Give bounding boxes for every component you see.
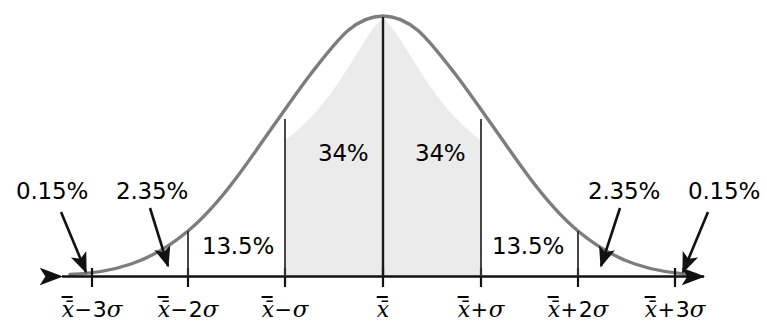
axis-tick-label-minus-1sigma: x̄−σ <box>262 296 309 322</box>
sigma-symbol: σ <box>593 296 609 322</box>
distribution-chart-svg <box>0 0 767 336</box>
sigma-symbol: σ <box>293 296 309 322</box>
normal-distribution-figure: 0.15% 2.35% 13.5% 34% 34% 13.5% 2.35% 0.… <box>0 0 767 336</box>
axis-tick-label-plus-2sigma: x̄+2σ <box>548 296 609 322</box>
operator-symbol: − <box>274 298 293 322</box>
multiplier-number: 3 <box>676 297 690 322</box>
multiplier-number: 3 <box>93 297 107 322</box>
leader-arrow-right-outer <box>683 212 708 272</box>
sigma-symbol: σ <box>489 296 505 322</box>
operator-symbol: − <box>74 298 93 322</box>
leader-arrow-left-outer <box>61 212 86 272</box>
leader-arrow-left-mid <box>150 208 168 266</box>
percent-label-left-outer: 0.15% <box>16 178 88 204</box>
percent-label-left-inner: 13.5% <box>202 233 274 259</box>
operator-symbol: + <box>657 298 676 322</box>
axis-tick-label-minus-2sigma: x̄−2σ <box>158 296 219 322</box>
mean-symbol: x̄ <box>458 297 470 322</box>
sigma-symbol: σ <box>203 296 219 322</box>
multiplier-number: 2 <box>579 297 593 322</box>
mean-symbol: x̄ <box>262 297 274 322</box>
operator-symbol: − <box>170 298 189 322</box>
sigma-symbol: σ <box>107 296 123 322</box>
axis-tick-label-plus-1sigma: x̄+σ <box>458 296 505 322</box>
percent-label-right-outer: 0.15% <box>688 178 760 204</box>
percent-label-left-mid: 2.35% <box>116 178 188 204</box>
operator-symbol: + <box>470 298 489 322</box>
mean-symbol: x̄ <box>62 297 74 322</box>
multiplier-number: 2 <box>189 297 203 322</box>
mean-symbol: x̄ <box>158 297 170 322</box>
percent-label-right-inner: 13.5% <box>492 233 564 259</box>
mean-symbol: x̄ <box>548 297 560 322</box>
axis-tick-label-minus-3sigma: x̄−3σ <box>62 296 123 322</box>
percent-label-right-mid: 2.35% <box>588 178 660 204</box>
axis-tick-label-plus-3sigma: x̄+3σ <box>645 296 706 322</box>
percent-label-center-right: 34% <box>415 140 466 166</box>
mean-symbol: x̄ <box>645 297 657 322</box>
axis-tick-label-mean: x̄ <box>377 296 389 322</box>
percent-label-center-left: 34% <box>318 140 369 166</box>
mean-symbol: x̄ <box>377 297 389 322</box>
operator-symbol: + <box>560 298 579 322</box>
sigma-symbol: σ <box>690 296 706 322</box>
